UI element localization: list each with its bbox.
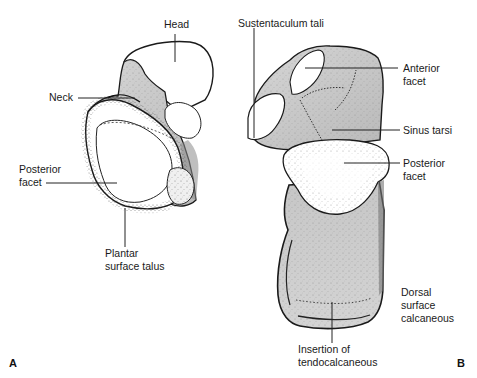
label-dorsal-3: calcaneous [401,312,454,325]
label-insertion-1: Insertion of [298,343,350,356]
label-sustentaculum-tali: Sustentaculum tali [238,17,324,30]
label-plantar-2: surface talus [105,260,165,273]
label-anterior-facet-1: Anterior [403,62,440,75]
label-anterior-facet-2: facet [403,75,426,88]
calcaneus-drawing [248,46,389,329]
label-head: Head [164,18,189,31]
panel-letter-a: A [9,357,17,369]
label-dorsal-1: Dorsal [401,286,431,299]
label-sinus-tarsi: Sinus tarsi [403,124,452,137]
label-neck: Neck [49,91,73,104]
label-talus-posterior-facet-2: facet [19,176,42,189]
label-insertion-2: tendocalcaneous [298,356,377,369]
anatomy-figure: Head Neck Posterior facet Plantar surfac… [0,0,477,378]
label-calcaneus-posterior-facet-2: facet [403,170,426,183]
talus-drawing [86,42,213,209]
label-dorsal-2: surface [401,299,435,312]
panel-letter-b: B [457,357,465,369]
label-calcaneus-posterior-facet-1: Posterior [403,157,445,170]
label-plantar-1: Plantar [105,247,138,260]
label-talus-posterior-facet-1: Posterior [19,163,61,176]
